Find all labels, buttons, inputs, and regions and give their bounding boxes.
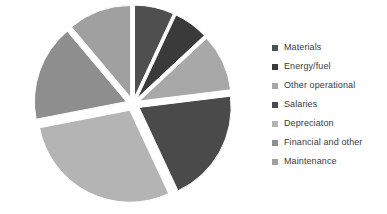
- legend-item[interactable]: Maintenance: [272, 152, 384, 171]
- legend-swatch-icon: [272, 45, 278, 51]
- legend-item[interactable]: Other operational: [272, 76, 384, 95]
- legend-swatch-icon: [272, 159, 278, 165]
- legend-item[interactable]: Materials: [272, 38, 384, 57]
- legend-item[interactable]: Energy/fuel: [272, 57, 384, 76]
- legend-item-label: Other operational: [284, 81, 355, 90]
- pie-svg: [0, 0, 262, 214]
- legend-item-label: Financial and other: [284, 138, 362, 147]
- legend-item-label: Salaries: [284, 100, 317, 109]
- legend-swatch-icon: [272, 83, 278, 89]
- pie-slice-group: [34, 5, 231, 202]
- legend-item-label: Depreciaton: [284, 119, 334, 128]
- legend-item[interactable]: Depreciaton: [272, 114, 384, 133]
- legend-item-label: Energy/fuel: [284, 62, 331, 71]
- legend-item-label: Maintenance: [284, 157, 337, 166]
- legend-swatch-icon: [272, 121, 278, 127]
- legend-swatch-icon: [272, 102, 278, 108]
- legend-item-label: Materials: [284, 43, 321, 52]
- legend-item[interactable]: Financial and other: [272, 133, 384, 152]
- pie-plot-area: [0, 0, 262, 214]
- legend-swatch-icon: [272, 140, 278, 146]
- legend-item[interactable]: Salaries: [272, 95, 384, 114]
- chart-legend: MaterialsEnergy/fuelOther operationalSal…: [272, 38, 384, 171]
- pie-chart-figure: MaterialsEnergy/fuelOther operationalSal…: [0, 0, 387, 214]
- legend-swatch-icon: [272, 64, 278, 70]
